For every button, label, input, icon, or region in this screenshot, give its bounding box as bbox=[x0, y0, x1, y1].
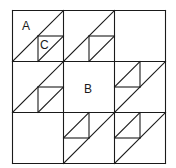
small-square-diagonal bbox=[89, 36, 115, 62]
label-a: A bbox=[22, 19, 30, 33]
small-square-diagonal bbox=[115, 62, 141, 88]
quilt-block-diagram: A B C bbox=[0, 0, 176, 168]
labels: A B C bbox=[22, 19, 92, 96]
small-square-diagonal bbox=[38, 87, 64, 113]
small-square-diagonal bbox=[115, 113, 141, 139]
label-b: B bbox=[84, 82, 92, 96]
label-c: C bbox=[40, 38, 49, 52]
small-square-diagonal bbox=[64, 113, 90, 139]
